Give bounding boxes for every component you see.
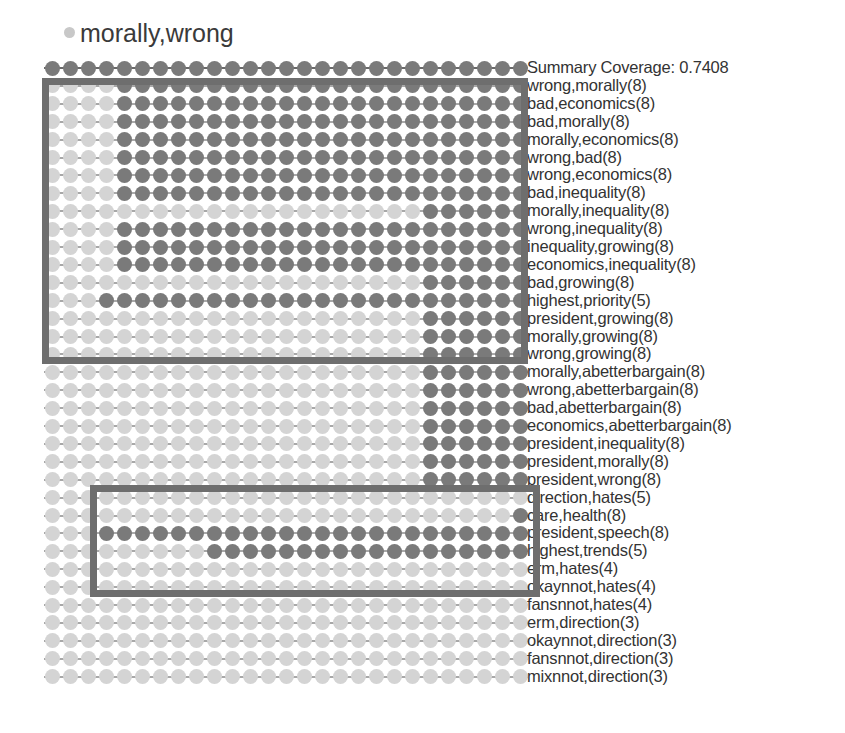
uncovered-dot [369, 436, 384, 451]
uncovered-dot [153, 401, 168, 416]
covered-dot [261, 61, 276, 76]
row-label: wrong,morally(8) [527, 77, 647, 93]
uncovered-dot [189, 436, 204, 451]
covered-dot [207, 61, 222, 76]
uncovered-dot [45, 633, 60, 648]
uncovered-dot [99, 633, 114, 648]
uncovered-dot [387, 669, 402, 684]
row-label: erm,hates(4) [527, 560, 618, 576]
uncovered-dot [81, 436, 96, 451]
uncovered-dot [333, 598, 348, 613]
row-label: okaynnot,direction(3) [527, 632, 677, 648]
uncovered-dot [405, 669, 420, 684]
summary-coverage-label: Summary Coverage: 0.7408 [527, 59, 729, 75]
uncovered-dot [387, 365, 402, 380]
uncovered-dot [63, 544, 78, 559]
uncovered-dot [405, 401, 420, 416]
covered-dot [423, 436, 438, 451]
uncovered-dot [243, 436, 258, 451]
uncovered-dot [135, 401, 150, 416]
row-label: morally,inequality(8) [527, 202, 669, 218]
uncovered-dot [387, 633, 402, 648]
uncovered-dot [513, 633, 528, 648]
covered-dot [495, 365, 510, 380]
uncovered-dot [189, 365, 204, 380]
uncovered-dot [45, 508, 60, 523]
row-label: okaynnot,hates(4) [527, 578, 656, 594]
uncovered-dot [243, 419, 258, 434]
uncovered-dot [441, 633, 456, 648]
uncovered-dot [297, 454, 312, 469]
uncovered-dot [333, 383, 348, 398]
row-label: economics,inequality(8) [527, 256, 696, 272]
covered-dot [297, 61, 312, 76]
uncovered-dot [99, 401, 114, 416]
covered-dot [495, 383, 510, 398]
uncovered-dot [63, 526, 78, 541]
uncovered-dot [387, 454, 402, 469]
uncovered-dot [243, 401, 258, 416]
row-label: president,inequality(8) [527, 435, 685, 451]
uncovered-dot [153, 454, 168, 469]
row-label: fansnnot,direction(3) [527, 650, 673, 666]
uncovered-dot [99, 651, 114, 666]
uncovered-dot [333, 436, 348, 451]
uncovered-dot [279, 651, 294, 666]
uncovered-dot [351, 419, 366, 434]
uncovered-dot [225, 669, 240, 684]
uncovered-dot [171, 365, 186, 380]
uncovered-dot [369, 383, 384, 398]
uncovered-dot [513, 615, 528, 630]
uncovered-dot [99, 383, 114, 398]
uncovered-dot [261, 401, 276, 416]
uncovered-dot [261, 651, 276, 666]
uncovered-dot [297, 401, 312, 416]
uncovered-dot [189, 401, 204, 416]
covered-dot [423, 383, 438, 398]
uncovered-dot [333, 651, 348, 666]
row-label: wrong,abetterbargain(8) [527, 381, 699, 397]
uncovered-dot [45, 383, 60, 398]
uncovered-dot [45, 365, 60, 380]
covered-dot [477, 365, 492, 380]
row-label: president,wrong(8) [527, 471, 661, 487]
uncovered-dot [207, 436, 222, 451]
covered-dot [459, 419, 474, 434]
covered-dot [459, 401, 474, 416]
uncovered-dot [513, 651, 528, 666]
uncovered-dot [405, 651, 420, 666]
uncovered-dot [279, 454, 294, 469]
uncovered-dot [225, 598, 240, 613]
uncovered-dot [405, 383, 420, 398]
uncovered-dot [441, 615, 456, 630]
uncovered-dot [279, 365, 294, 380]
uncovered-dot [459, 615, 474, 630]
uncovered-dot [153, 419, 168, 434]
covered-dot [225, 61, 240, 76]
uncovered-dot [45, 472, 60, 487]
uncovered-dot [81, 401, 96, 416]
covered-dot [513, 436, 528, 451]
covered-dot [459, 454, 474, 469]
uncovered-dot [333, 365, 348, 380]
uncovered-dot [387, 401, 402, 416]
row-label: mixnnot,direction(3) [527, 668, 668, 684]
uncovered-dot [315, 454, 330, 469]
uncovered-dot [333, 615, 348, 630]
uncovered-dot [135, 651, 150, 666]
uncovered-dot [387, 383, 402, 398]
uncovered-dot [261, 454, 276, 469]
uncovered-dot [315, 615, 330, 630]
uncovered-dot [441, 651, 456, 666]
uncovered-dot [135, 633, 150, 648]
uncovered-dot [369, 651, 384, 666]
uncovered-dot [333, 419, 348, 434]
covered-dot [459, 383, 474, 398]
uncovered-dot [279, 419, 294, 434]
top-cluster-box[interactable] [42, 78, 528, 364]
uncovered-dot [477, 598, 492, 613]
bottom-cluster-box[interactable] [90, 485, 540, 597]
uncovered-dot [225, 436, 240, 451]
row-label: president,morally(8) [527, 453, 669, 469]
uncovered-dot [45, 562, 60, 577]
